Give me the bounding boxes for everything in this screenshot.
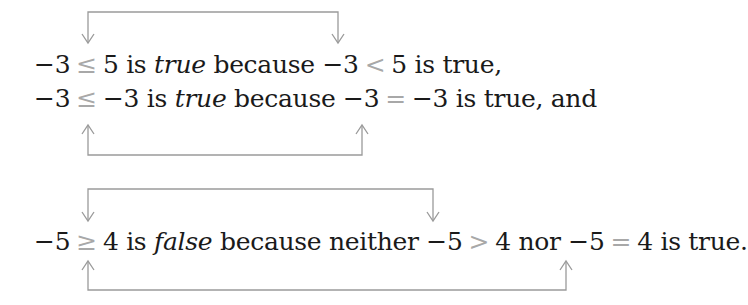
lhs: −3 — [34, 50, 70, 79]
because-clause: because −3 — [213, 50, 358, 79]
relation-symbol: ≤ — [70, 84, 103, 113]
rhs: 4 is — [103, 227, 146, 256]
tail: −3 is true, and — [412, 84, 597, 113]
verdict: true — [175, 84, 227, 113]
relation-symbol-3: = — [605, 227, 638, 256]
bracket-le-to-eq — [82, 125, 368, 155]
relation-symbol-2: > — [463, 227, 496, 256]
tail: 5 is true, — [391, 50, 501, 79]
bracket-le-to-lt — [82, 12, 344, 43]
relation-symbol: ≥ — [70, 227, 103, 256]
statement-line-3: −5≥4 is false because neither −5>4 nor −… — [34, 227, 748, 256]
relation-symbol: ≤ — [70, 50, 103, 79]
because-clause: because −3 — [234, 84, 379, 113]
lhs: −5 — [34, 227, 70, 256]
statement-line-2: −3≤−3 is true because −3=−3 is true, and — [34, 84, 597, 113]
bracket-ge-to-gt — [82, 189, 439, 221]
relation-symbol-2: < — [359, 50, 392, 79]
relation-symbol-2: = — [379, 84, 412, 113]
rhs: 5 is — [103, 50, 146, 79]
middle-clause: 4 nor −5 — [495, 227, 604, 256]
tail: 4 is true. — [637, 227, 747, 256]
verdict: false — [154, 227, 212, 256]
bracket-ge-to-eq — [82, 261, 572, 290]
because-clause: because neither −5 — [220, 227, 463, 256]
verdict: true — [154, 50, 206, 79]
statement-line-1: −3≤5 is true because −3<5 is true, — [34, 50, 502, 79]
rhs: −3 is — [103, 84, 167, 113]
lhs: −3 — [34, 84, 70, 113]
